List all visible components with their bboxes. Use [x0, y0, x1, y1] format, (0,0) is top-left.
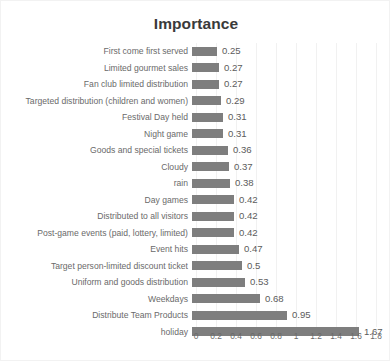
bar-track: 0.68	[192, 291, 390, 308]
bar-track: 0.27	[192, 76, 390, 93]
plot-area: First come first served0.25Limited gourm…	[1, 43, 390, 333]
bar-value-label: 0.5	[247, 261, 260, 271]
bar-row: Festival Day held0.31	[1, 109, 390, 126]
bar-track: 0.31	[192, 109, 390, 126]
chart-container: Importance First come first served0.25Li…	[0, 0, 390, 361]
bar-value-label: 0.37	[234, 162, 253, 172]
category-label: Limited gourmet sales	[1, 63, 192, 73]
category-label: rain	[1, 178, 192, 188]
bar-track: 0.27	[192, 60, 390, 77]
x-axis-tick-label: 1.2	[310, 331, 322, 341]
x-axis-tick-label: 1.6	[350, 331, 362, 341]
bar-row: First come first served0.25	[1, 43, 390, 60]
bar-row: Night game0.31	[1, 126, 390, 143]
x-axis-tick-label: 0.6	[250, 331, 262, 341]
bar-track: 0.42	[192, 192, 390, 209]
bar-value-label: 0.31	[228, 129, 247, 139]
bar[interactable]	[192, 129, 223, 138]
category-label: Cloudy	[1, 162, 192, 172]
bar-row: Uniform and goods distribution0.53	[1, 274, 390, 291]
bar-row: Weekdays0.68	[1, 291, 390, 308]
bar-track: 0.25	[192, 43, 390, 60]
bar-track: 0.38	[192, 175, 390, 192]
bar[interactable]	[192, 228, 234, 237]
bar-row: Limited gourmet sales0.27	[1, 60, 390, 77]
bar[interactable]	[192, 261, 242, 270]
bar-value-label: 0.36	[233, 145, 252, 155]
bar[interactable]	[192, 212, 234, 221]
bar-track: 0.42	[192, 208, 390, 225]
bar-rows: First come first served0.25Limited gourm…	[1, 43, 390, 340]
bar-value-label: 0.25	[222, 46, 241, 56]
bar-track: 0.95	[192, 307, 390, 324]
bar-value-label: 0.42	[239, 195, 258, 205]
x-axis-tick-label: 1	[294, 331, 299, 341]
bar[interactable]	[192, 195, 234, 204]
bar-row: Target person-limited discount ticket0.5	[1, 258, 390, 275]
bar-row: Post-game events (paid, lottery, limited…	[1, 225, 390, 242]
bar-track: 0.31	[192, 126, 390, 143]
bar-value-label: 0.31	[228, 112, 247, 122]
chart-title: Importance	[1, 15, 390, 33]
category-label: Uniform and goods distribution	[1, 277, 192, 287]
bar-row: Day games0.42	[1, 192, 390, 209]
bar-track: 0.53	[192, 274, 390, 291]
bar[interactable]	[192, 80, 219, 89]
bar-track: 0.5	[192, 258, 390, 275]
bar-track: 0.29	[192, 93, 390, 110]
x-axis-tick-label: 1.4	[330, 331, 342, 341]
bar-row: Distribute Team Products0.95	[1, 307, 390, 324]
category-label: Festival Day held	[1, 112, 192, 122]
bar-track: 0.42	[192, 225, 390, 242]
bar-row: Event hits0.47	[1, 241, 390, 258]
category-label: Distribute Team Products	[1, 310, 192, 320]
bar-track: 0.36	[192, 142, 390, 159]
bar-row: Targeted distribution (children and wome…	[1, 93, 390, 110]
bar-value-label: 0.95	[292, 310, 311, 320]
bar[interactable]	[192, 113, 223, 122]
bar-value-label: 0.27	[224, 63, 243, 73]
x-axis-tick-label: 1.8	[370, 331, 382, 341]
bar-value-label: 0.29	[226, 96, 245, 106]
category-label: Targeted distribution (children and wome…	[1, 96, 192, 106]
bar-value-label: 0.47	[244, 244, 263, 254]
bar[interactable]	[192, 179, 230, 188]
bar[interactable]	[192, 63, 219, 72]
bar-row: rain0.38	[1, 175, 390, 192]
bar-value-label: 0.53	[250, 277, 269, 287]
category-label: Target person-limited discount ticket	[1, 261, 192, 271]
bar-row: Fan club limited distribution0.27	[1, 76, 390, 93]
bar-value-label: 0.27	[224, 79, 243, 89]
category-label: First come first served	[1, 46, 192, 56]
bar-row: Cloudy0.37	[1, 159, 390, 176]
bar-track: 0.37	[192, 159, 390, 176]
bar-value-label: 0.38	[235, 178, 254, 188]
bar[interactable]	[192, 96, 221, 105]
category-label: Weekdays	[1, 294, 192, 304]
category-label: Distributed to all visitors	[1, 211, 192, 221]
category-label: holiday	[1, 327, 192, 337]
x-axis-tick-label: 0.4	[230, 331, 242, 341]
bar-value-label: 0.68	[265, 294, 284, 304]
category-label: Goods and special tickets	[1, 145, 192, 155]
x-axis-tick-label: 0.2	[210, 331, 222, 341]
bar-row: Goods and special tickets0.36	[1, 142, 390, 159]
bar[interactable]	[192, 47, 217, 56]
bar[interactable]	[192, 294, 260, 303]
x-axis-tick-label: 0.8	[270, 331, 282, 341]
bar[interactable]	[192, 146, 228, 155]
category-label: Day games	[1, 195, 192, 205]
bar[interactable]	[192, 311, 287, 320]
category-label: Event hits	[1, 244, 192, 254]
bar[interactable]	[192, 245, 239, 254]
bar[interactable]	[192, 278, 245, 287]
bar-value-label: 0.42	[239, 211, 258, 221]
bar-value-label: 0.42	[239, 228, 258, 238]
bar[interactable]	[192, 162, 229, 171]
x-axis-tick-label: 0	[194, 331, 199, 341]
bar-track: 0.47	[192, 241, 390, 258]
category-label: Night game	[1, 129, 192, 139]
bar-row: Distributed to all visitors0.42	[1, 208, 390, 225]
category-label: Post-game events (paid, lottery, limited…	[1, 228, 192, 238]
x-axis: 00.20.40.60.811.21.41.61.8	[196, 329, 376, 347]
